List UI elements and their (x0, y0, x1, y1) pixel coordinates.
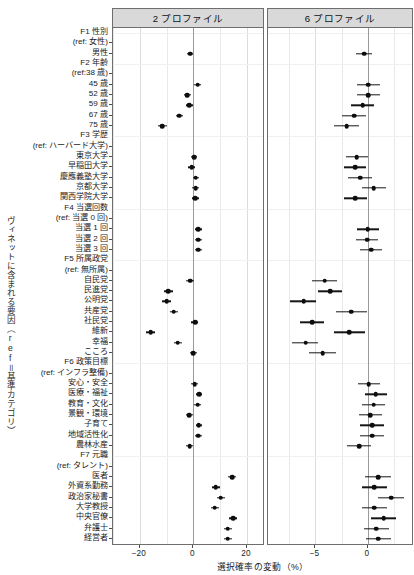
estimate-point (192, 382, 197, 387)
estimate-point (165, 299, 170, 304)
estimate-point (374, 526, 379, 531)
gridline-horizontal (268, 260, 412, 261)
estimate-point (365, 237, 370, 242)
estimate-point (369, 248, 374, 253)
estimate-point (196, 433, 201, 438)
y-axis-reference-label: (ref:38 歳) (72, 69, 108, 78)
y-axis-reference-label: (ref: タレント) (57, 461, 108, 470)
estimate-point (193, 186, 198, 191)
y-axis-reference-label: (ref: 当選 0 回) (56, 214, 108, 223)
y-axis-group-header: F5 所属政党 (64, 255, 108, 264)
y-axis-reference-label: (ref: 無所属) (65, 265, 108, 274)
gridline-horizontal (268, 136, 412, 137)
gridline-vertical-major (315, 28, 316, 544)
estimate-point (175, 340, 180, 345)
gridline-horizontal (113, 363, 263, 364)
panel-2-profile-plot-area (113, 28, 263, 544)
y-axis-reference-label: (ref: インフラ整備) (41, 368, 108, 377)
gridline-horizontal (268, 64, 412, 65)
estimate-point (197, 392, 202, 397)
x-axis-tick-label: 20 (241, 549, 250, 558)
estimate-point (366, 93, 371, 98)
y-axis-tick-label: 45 歳 (89, 79, 108, 88)
y-axis-tick-label: こころ (84, 348, 108, 357)
estimate-point (352, 113, 357, 118)
estimate-point (187, 103, 192, 108)
estimate-point (345, 124, 350, 129)
estimate-point (368, 413, 373, 418)
estimate-point (185, 93, 190, 98)
gridline-horizontal (113, 456, 263, 457)
estimate-point (196, 227, 201, 232)
y-axis-tick-label: 教育・文化 (68, 399, 108, 408)
y-axis-group-header: F7 元職 (80, 451, 108, 460)
estimate-point (195, 402, 200, 407)
x-axis-tick-label: −20 (132, 549, 146, 558)
estimate-point (196, 248, 201, 253)
estimate-point (193, 196, 198, 201)
y-axis-tick-label: 67 歳 (89, 110, 108, 119)
estimate-point (192, 155, 197, 160)
y-axis-tick-label: 75 歳 (89, 121, 108, 130)
estimate-point (214, 485, 219, 490)
gridline-horizontal (268, 209, 412, 210)
estimate-point (328, 289, 333, 294)
estimate-point (195, 82, 200, 87)
y-axis-tick-label: 慶應義塾大学 (60, 172, 108, 181)
y-axis-tick-label: 維新 (92, 327, 108, 336)
estimate-point (196, 423, 201, 428)
y-axis-tick-label: 外資系勤務 (68, 482, 108, 491)
x-axis-tick (192, 545, 193, 548)
panel-6-profile: 6 プロファイル (267, 8, 413, 545)
estimate-point (189, 165, 194, 170)
y-axis-group-header: F4 当選回数 (64, 203, 108, 212)
y-axis-tick-label: 公明党 (84, 296, 108, 305)
panel-6-profile-title: 6 プロファイル (268, 9, 412, 28)
gridline-vertical (113, 28, 114, 544)
estimate-point (225, 537, 230, 542)
estimate-point (376, 475, 381, 480)
y-axis-tick-label: 共産党 (84, 307, 108, 316)
estimate-point (372, 485, 377, 490)
estimate-point (367, 382, 372, 387)
gridline-horizontal (113, 64, 263, 65)
gridline-vertical-major (247, 28, 248, 544)
estimate-point (187, 413, 192, 418)
estimate-point (371, 402, 376, 407)
x-axis-tick-label: 0 (190, 549, 195, 558)
y-axis-tick-label: 京都大学 (76, 183, 108, 192)
estimate-point (191, 351, 196, 356)
estimate-point (349, 310, 354, 315)
x-axis-tick (367, 545, 368, 548)
x-axis-tick (314, 545, 315, 548)
estimate-point (362, 52, 367, 57)
gridline-horizontal (268, 456, 412, 457)
panel-2-profile: 2 プロファイル (112, 8, 264, 545)
gridline-horizontal (113, 33, 263, 34)
estimate-point (320, 351, 325, 356)
x-axis-tick-label: 0 (365, 549, 370, 558)
estimate-point (166, 289, 171, 294)
estimate-point (366, 82, 371, 87)
estimate-point (160, 124, 165, 129)
x-axis-tick-label: −5 (310, 549, 319, 558)
gridline-vertical (342, 28, 343, 544)
estimate-point (357, 444, 362, 449)
estimate-point (177, 113, 182, 118)
estimate-point (218, 495, 223, 500)
gridline-horizontal (268, 363, 412, 364)
panel-6-profile-plot-area (268, 28, 412, 544)
estimate-point (370, 423, 375, 428)
gridline-vertical (394, 28, 395, 544)
estimate-point (188, 52, 193, 57)
estimate-point (360, 103, 365, 108)
estimate-point (225, 526, 230, 531)
estimate-point (231, 516, 236, 521)
estimate-point (366, 227, 371, 232)
estimate-point (193, 175, 198, 180)
estimate-point (381, 516, 386, 521)
y-axis-tick-label: 経営者 (84, 534, 108, 543)
y-axis-tick-label: 政治家秘書 (68, 492, 108, 501)
y-axis-tick-label: 男性 (92, 49, 108, 58)
estimate-point (353, 196, 358, 201)
